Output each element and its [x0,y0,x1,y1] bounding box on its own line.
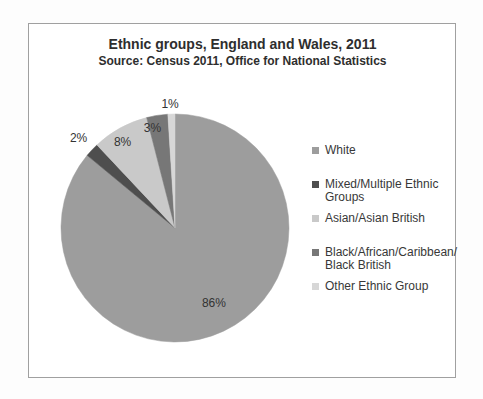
legend-marker-icon [312,181,319,188]
data-label-8pct: 8% [114,135,131,149]
data-label-3pct: 3% [144,121,161,135]
legend-item-other-ethnic-group: Other Ethnic Group [312,280,428,293]
legend-label: Other Ethnic Group [325,280,428,293]
data-label-86pct: 86% [202,296,226,310]
legend-item-asian-asian-british: Asian/Asian British [312,212,425,225]
legend-label: Asian/Asian British [325,212,425,225]
legend-item-black-african-caribbean-black-british: Black/African/Caribbean/Black British [312,246,457,272]
legend-label: Black/African/Caribbean/Black British [325,246,457,272]
data-label-1pct: 1% [161,97,178,111]
legend-item-mixed-multiple-ethnic-groups: Mixed/Multiple EthnicGroups [312,178,438,204]
data-label-2pct: 2% [70,131,87,145]
legend-label: Mixed/Multiple EthnicGroups [325,178,438,204]
legend-marker-icon [312,147,319,154]
legend-label: White [325,144,356,157]
legend-marker-icon [312,215,319,222]
legend-marker-icon [312,249,319,256]
legend-item-white: White [312,144,356,157]
legend-marker-icon [312,283,319,290]
